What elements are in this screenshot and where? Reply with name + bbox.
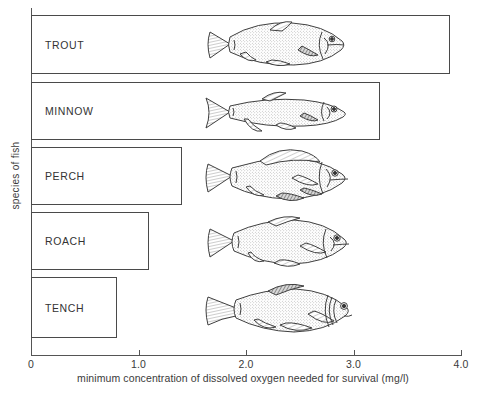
x-tick-label-3: 3.0 (346, 358, 361, 370)
bar-perch: PERCH (31, 147, 182, 205)
bar-label-minnow: MINNOW (45, 105, 94, 117)
x-tick-label-0: 0 (28, 358, 34, 370)
x-tick-mark-4 (461, 350, 462, 356)
fish-roach-illustration (196, 212, 361, 272)
y-axis-title: species of fish (10, 131, 21, 221)
bar-label-tench: TENCH (45, 302, 84, 314)
bar-label-roach: ROACH (45, 235, 86, 247)
bar-roach: ROACH (31, 212, 149, 270)
x-tick-mark-3 (354, 350, 355, 356)
x-tick-mark-0 (31, 350, 32, 356)
x-tick-mark-1 (139, 350, 140, 356)
x-axis-title: minimum concentration of dissolved oxyge… (0, 372, 486, 384)
oxygen-requirement-bar-chart: 0 1.0 2.0 3.0 4.0 minimum concentration … (0, 0, 486, 395)
x-tick-mark-2 (246, 350, 247, 356)
bar-trout: TROUT (31, 15, 450, 74)
fish-tench-illustration (196, 278, 364, 340)
x-tick-label-4: 4.0 (453, 358, 468, 370)
bar-label-trout: TROUT (45, 39, 84, 51)
x-tick-label-1: 1.0 (131, 358, 146, 370)
bar-minnow: MINNOW (31, 82, 380, 140)
fish-perch-illustration (196, 146, 364, 208)
bar-label-perch: PERCH (45, 170, 85, 182)
x-tick-label-2: 2.0 (238, 358, 253, 370)
bar-tench: TENCH (31, 277, 117, 338)
